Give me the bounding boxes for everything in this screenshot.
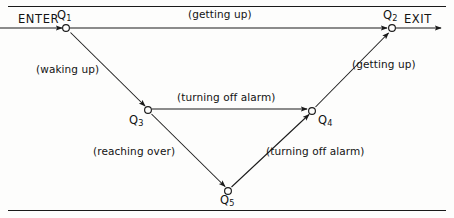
state-label-q5-base: Q	[220, 193, 229, 207]
edge-q4-q2	[316, 33, 389, 107]
state-label-q3: Q3	[129, 113, 143, 128]
state-label-q1-base: Q	[57, 8, 66, 22]
edge-label-turning-off-alarm-low: (turning off alarm)	[266, 145, 365, 157]
terminal-label-exit: EXIT	[404, 12, 432, 26]
state-label-q3-subscript: 3	[138, 118, 143, 128]
state-label-q1-subscript: 1	[66, 13, 71, 23]
state-node-q3[interactable]	[145, 107, 152, 114]
edge-layer	[0, 28, 441, 187]
edge-label-getting-up-right: (getting up)	[352, 58, 416, 70]
edge-label-reaching-over: (reaching over)	[93, 145, 175, 157]
state-node-q4[interactable]	[309, 108, 316, 115]
edge-label-turning-off-alarm-mid: (turning off alarm)	[177, 91, 276, 103]
state-node-q1[interactable]	[63, 25, 70, 32]
state-label-q5: Q5	[220, 193, 234, 208]
state-label-q5-subscript: 5	[229, 198, 234, 208]
state-label-q2-base: Q	[383, 8, 392, 22]
state-label-q1: Q1	[57, 8, 71, 23]
state-label-q4-base: Q	[318, 113, 327, 127]
state-label-q4-subscript: 4	[327, 118, 332, 128]
state-label-q4: Q4	[318, 113, 332, 128]
terminal-label-enter: ENTER	[18, 12, 59, 26]
edge-label-getting-up-top: (getting up)	[188, 8, 252, 20]
state-label-q2: Q2	[383, 8, 397, 23]
state-node-q2[interactable]	[389, 25, 396, 32]
state-label-q2-subscript: 2	[392, 13, 397, 23]
diagram-page: ENTER EXIT Q1 Q2 Q3 Q4 Q5 (getting up) (…	[0, 0, 454, 218]
state-label-q3-base: Q	[129, 113, 138, 127]
state-diagram-canvas	[0, 0, 454, 218]
edge-label-waking-up: (waking up)	[36, 63, 99, 75]
